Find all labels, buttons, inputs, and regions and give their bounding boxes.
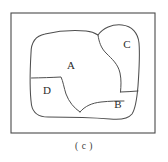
divider-a-d: [32, 77, 81, 112]
region-label-b: B: [114, 98, 121, 110]
region-label-d: D: [43, 84, 51, 96]
region-label-a: A: [67, 59, 75, 71]
divider-c-b: [121, 91, 139, 92]
figure-caption: ( c ): [75, 141, 93, 152]
region-partition-diagram: A B C D ( c ): [0, 0, 168, 162]
region-label-c: C: [123, 38, 130, 50]
divider-a-c: [98, 35, 121, 92]
figure-container: A B C D ( c ): [0, 0, 168, 162]
